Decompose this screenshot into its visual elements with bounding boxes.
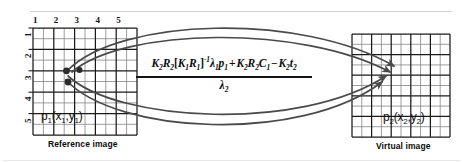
virtual-point-comma: ,y	[408, 110, 417, 124]
reference-tick-top-5: 5	[116, 16, 121, 25]
equation-numerator: K2R2[K1R1]-1λ1p1+K2R2C1−K2t2	[136, 53, 312, 75]
equation-denominator: λ2	[136, 78, 312, 97]
equation-token-7: p1	[219, 57, 228, 69]
equation-token-12: −	[270, 57, 278, 69]
equation-token-1: R2	[163, 57, 174, 69]
mapping-equation: K2R2[K1R1]-1λ1p1+K2R2C1−K2t2 λ2	[136, 53, 312, 97]
reference-tick-top-4: 4	[95, 16, 100, 25]
equation-token-10: R2	[248, 57, 259, 69]
equation-lambda-sub: 2	[225, 85, 229, 94]
equation-token-11: C1	[259, 57, 270, 69]
reference-tick-top-2: 2	[54, 16, 59, 25]
source-points	[63, 67, 82, 85]
virtual-point-close: )	[421, 110, 425, 124]
reference-tick-left-3: 3	[24, 76, 33, 81]
source-point-3	[65, 79, 72, 86]
equation-token-14-sub: 2	[293, 63, 297, 72]
equation-token-0: K2	[151, 57, 162, 69]
virtual-point-label: p2(x2,y2)	[383, 111, 425, 126]
equation-token-6: λ1	[210, 57, 219, 69]
equation-token-14: t2	[290, 57, 297, 69]
reference-image-caption: Reference image	[48, 140, 118, 149]
reference-tick-top-3: 3	[75, 16, 80, 25]
equation-token-13: K2	[279, 57, 290, 69]
source-point-1	[63, 67, 70, 74]
figure-container: 1 2 3 4 5 1 2 3 4 5 p1(x1,y1) p2(x2,y2) …	[0, 0, 462, 162]
reference-tick-left-4: 4	[24, 97, 33, 102]
reference-tick-left-2: 2	[24, 54, 33, 59]
equation-token-4: R1	[189, 57, 200, 69]
reference-point-open: (x	[52, 109, 62, 123]
virtual-point-open: (x	[394, 110, 404, 124]
reference-tick-left-5: 5	[24, 119, 33, 124]
equation-token-3: K1	[178, 57, 189, 69]
source-point-2	[77, 67, 83, 73]
virtual-image-caption: Virtual image	[376, 142, 431, 151]
equation-token-5: ]-1	[200, 57, 210, 69]
reference-point-label: p1(x1,y1)	[41, 110, 83, 125]
reference-tick-left-1: 1	[24, 33, 33, 38]
reference-point-close: )	[79, 109, 83, 123]
reference-tick-top-1: 1	[33, 16, 38, 25]
reference-point-comma: ,y	[66, 109, 75, 123]
equation-token-9: K2	[236, 57, 247, 69]
